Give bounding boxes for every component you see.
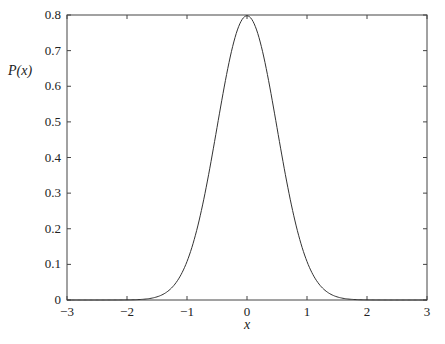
x-tick-label: −3 — [60, 304, 74, 319]
chart: −3−2−10123 00.10.20.30.40.50.60.70.8 x P… — [0, 0, 445, 344]
y-axis-label: P(x) — [7, 63, 32, 79]
y-tick-label: 0.6 — [45, 78, 62, 93]
y-tick-label: 0.1 — [45, 256, 61, 271]
x-axis-ticks: −3−2−10123 — [60, 15, 430, 319]
y-tick-label: 0.2 — [45, 221, 61, 236]
x-tick-label: −2 — [120, 304, 134, 319]
y-axis-ticks: 00.10.20.30.40.50.60.70.8 — [45, 7, 427, 307]
series-line — [67, 16, 427, 300]
x-tick-label: 1 — [304, 304, 311, 319]
y-tick-label: 0.4 — [45, 150, 62, 165]
x-tick-label: −1 — [180, 304, 194, 319]
x-tick-label: 2 — [364, 304, 371, 319]
y-tick-label: 0.3 — [45, 185, 61, 200]
x-axis-label: x — [243, 317, 251, 332]
x-tick-label: 3 — [424, 304, 431, 319]
y-tick-label: 0.7 — [45, 43, 62, 58]
y-tick-label: 0.5 — [45, 114, 61, 129]
y-tick-label: 0.8 — [45, 7, 61, 22]
plot-frame — [67, 15, 427, 300]
y-tick-label: 0 — [55, 292, 62, 307]
